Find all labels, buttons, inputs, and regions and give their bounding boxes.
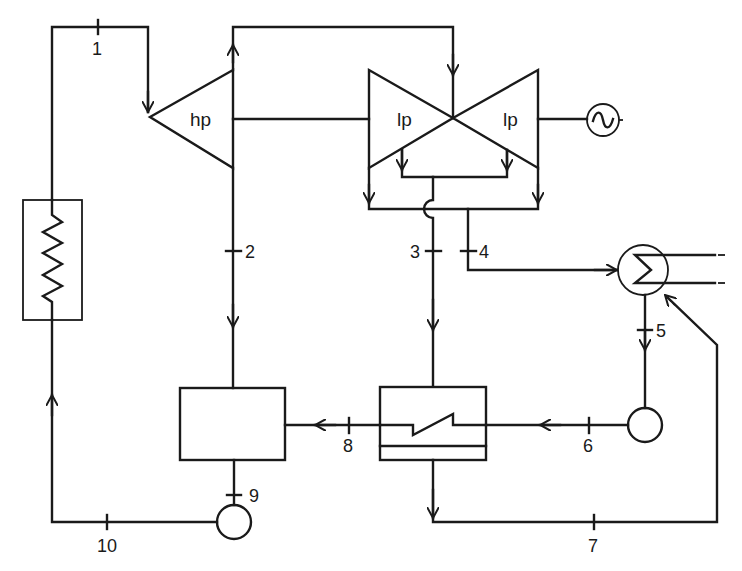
- line-1: 1: [52, 20, 148, 200]
- closed-feedwater-heater: [380, 387, 486, 460]
- state-point-2: 2: [245, 242, 255, 262]
- crossover-line: [233, 27, 453, 118]
- lp-turbine-right: lp: [453, 70, 538, 168]
- line-8: 8: [285, 418, 380, 456]
- condenser: [618, 245, 725, 295]
- boiler: [23, 200, 82, 320]
- line-10: 10: [52, 320, 217, 556]
- extraction-line-3: 3: [402, 150, 507, 385]
- state-point-4: 4: [479, 242, 489, 262]
- state-point-8: 8: [343, 436, 353, 456]
- lp-turbine-left: lp: [369, 70, 453, 168]
- hp-label: hp: [190, 109, 211, 130]
- line-6: 6: [486, 418, 628, 456]
- generator: [538, 104, 623, 136]
- hp-turbine: hp: [150, 70, 233, 168]
- feed-pump: [217, 505, 251, 539]
- lp-left-label: lp: [397, 109, 412, 130]
- heater-zigzag-icon: [43, 200, 62, 320]
- condensate-pump: [628, 408, 662, 442]
- line-2: 2: [226, 168, 255, 388]
- state-point-6: 6: [583, 436, 593, 456]
- line-5: 5: [638, 295, 666, 408]
- state-point-1: 1: [92, 39, 102, 59]
- generator-sine-wave-icon: [593, 113, 613, 128]
- line-9: 9: [227, 460, 259, 506]
- state-point-5: 5: [656, 321, 666, 341]
- state-point-10: 10: [97, 536, 117, 556]
- exhaust-line-4: 4: [369, 168, 617, 270]
- condenser-coil-icon: [635, 255, 715, 283]
- heat-exchange-icon: [380, 414, 486, 435]
- state-point-3: 3: [410, 242, 420, 262]
- state-point-7: 7: [588, 536, 598, 556]
- open-feedwater-heater: [180, 388, 285, 460]
- state-point-9: 9: [249, 486, 259, 506]
- lp-right-label: lp: [503, 109, 518, 130]
- cycle-diagram: 1 hp lp lp 3: [0, 0, 742, 571]
